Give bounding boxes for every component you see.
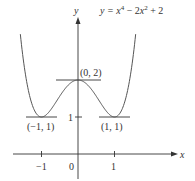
x-axis-label: x	[179, 149, 185, 160]
y-axis-label: y	[73, 5, 79, 16]
point-label-right-min: (1, 1)	[101, 121, 123, 133]
point-label-left-min: (−1, 1)	[27, 121, 54, 133]
x-tick-label-0: 0	[69, 161, 74, 172]
equation-label: y = x4 − 2x2 + 2	[99, 4, 163, 16]
function-graph: y x y = x4 − 2x2 + 2 (0, 2) (−1, 1) (1, …	[0, 0, 195, 181]
x-axis-arrow-icon	[171, 152, 178, 157]
x-tick-label-1: 1	[111, 161, 116, 172]
y-axis-arrow-icon	[76, 17, 81, 24]
x-tick-label-neg1: −1	[36, 161, 47, 172]
y-tick-label-1: 1	[68, 112, 73, 123]
point-label-max: (0, 2)	[80, 67, 102, 79]
